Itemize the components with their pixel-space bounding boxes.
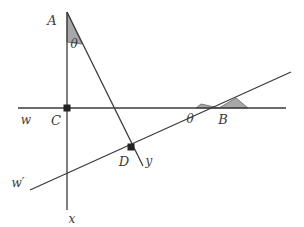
label-angle-theta-right: θ [186, 112, 194, 126]
label-point-c: C [51, 113, 61, 128]
label-point-b: B [217, 112, 228, 127]
label-axis-w-prime: w′ [12, 176, 25, 190]
label-point-a: A [46, 13, 56, 28]
label-axis-y: y [145, 154, 153, 168]
point-d-marker [128, 144, 135, 151]
geometry-canvas: A θ w C θ B D y w′ x [0, 0, 304, 227]
label-point-d: D [118, 154, 130, 169]
label-axis-w: w [21, 113, 32, 127]
point-c-marker [64, 105, 71, 112]
line-w-prime-rising [30, 72, 291, 190]
line-y-descending [67, 12, 143, 166]
label-angle-theta-top: θ [70, 37, 78, 51]
geometry-figure: A θ w C θ B D y w′ x [0, 0, 304, 227]
label-axis-x: x [69, 212, 76, 226]
